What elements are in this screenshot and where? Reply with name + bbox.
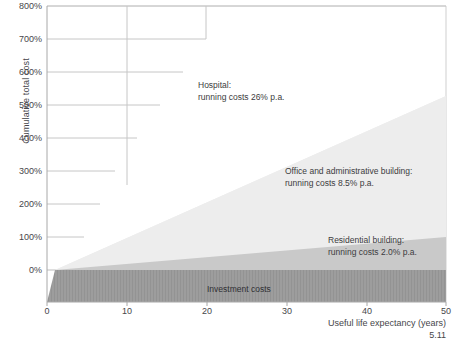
annotation-office-title: Office and administrative building: <box>285 166 412 178</box>
x-tick-label-30: 30 <box>267 306 307 316</box>
x-tick-label-20: 20 <box>187 306 227 316</box>
x-tick-label-50: 50 <box>426 306 456 316</box>
annotation-residential-title: Residential building: <box>328 235 404 247</box>
y-tick-label-300: 300% <box>0 166 42 176</box>
y-tick-label-600: 600% <box>0 67 42 77</box>
y-tick-label-400: 400% <box>0 133 42 143</box>
figure-number: 5.11 <box>340 330 446 340</box>
x-tick-label-10: 10 <box>107 306 147 316</box>
annotation-office-rate: running costs 8.5% p.a. <box>285 178 374 190</box>
y-tick-label-200: 200% <box>0 199 42 209</box>
x-axis-title: Useful life expectancy (years) <box>250 318 446 328</box>
y-tick-label-700: 700% <box>0 34 42 44</box>
x-tick-label-0: 0 <box>27 306 67 316</box>
annotation-investment-costs: Investment costs <box>207 284 271 296</box>
y-tick-label-500: 500% <box>0 100 42 110</box>
annotation-residential-rate: running costs 2.0% p.a. <box>328 247 417 259</box>
annotation-hospital-rate: running costs 26% p.a. <box>198 92 284 104</box>
x-tick-label-40: 40 <box>347 306 387 316</box>
y-tick-label-0: 0% <box>0 265 42 275</box>
y-tick-label-800: 800% <box>0 1 42 11</box>
y-tick-label-100: 100% <box>0 232 42 242</box>
annotation-hospital-title: Hospital: <box>198 80 231 92</box>
